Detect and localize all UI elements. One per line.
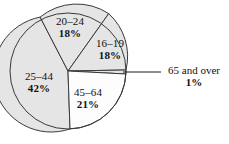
pie-label-45-64: 45–64 21% — [64, 86, 112, 111]
pie-label-25-44-category: 25–44 — [15, 70, 63, 82]
pie-chart-figure: 20–24 18% 16–19 18% 25–44 42% 45–64 21% … — [0, 0, 229, 144]
pie-label-65-and-over-category: 65 and over — [159, 64, 229, 76]
pie-label-65-and-over-value: 1% — [159, 76, 229, 88]
pie-label-20-24: 20–24 18% — [46, 15, 94, 40]
pie-label-25-44-value: 42% — [15, 82, 63, 94]
pie-label-25-44: 25–44 42% — [15, 70, 63, 95]
pie-label-20-24-category: 20–24 — [46, 15, 94, 27]
pie-label-45-64-category: 45–64 — [64, 86, 112, 98]
pie-label-16-19-category: 16–19 — [86, 37, 134, 49]
pie-label-65-and-over: 65 and over 1% — [159, 64, 229, 89]
pie-label-16-19-value: 18% — [86, 49, 134, 61]
pie-label-45-64-value: 21% — [64, 98, 112, 110]
pie-label-16-19: 16–19 18% — [86, 37, 134, 62]
